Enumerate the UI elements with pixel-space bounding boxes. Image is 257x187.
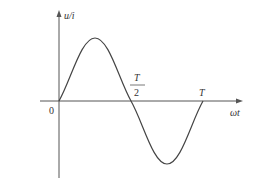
origin-label: 0 bbox=[49, 105, 54, 116]
half-period-numerator: T bbox=[134, 72, 141, 83]
half-period-denominator: 2 bbox=[134, 87, 139, 98]
y-axis-label: u/i bbox=[64, 10, 75, 21]
y-axis-arrow-icon bbox=[57, 10, 62, 17]
period-label: T bbox=[199, 87, 206, 98]
sine-wave-diagram: u/i ωt 0 T 2 T bbox=[0, 0, 257, 187]
x-axis-arrow-icon bbox=[236, 99, 243, 104]
x-axis-label: ωt bbox=[230, 107, 240, 118]
